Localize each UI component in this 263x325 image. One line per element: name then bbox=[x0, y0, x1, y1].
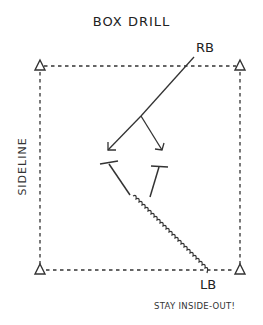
coaching-note: STAY INSIDE-OUT! bbox=[154, 301, 235, 311]
block-marks bbox=[100, 161, 168, 197]
box-boundary bbox=[40, 66, 240, 270]
sideline-label: SIDELINE bbox=[16, 137, 29, 197]
lb-label: LB bbox=[200, 277, 216, 292]
cone-icon bbox=[35, 60, 245, 274]
rb-label: RB bbox=[196, 40, 214, 55]
drill-diagram bbox=[0, 0, 263, 325]
rb-route bbox=[108, 57, 194, 150]
lb-wavy-path bbox=[133, 195, 208, 273]
